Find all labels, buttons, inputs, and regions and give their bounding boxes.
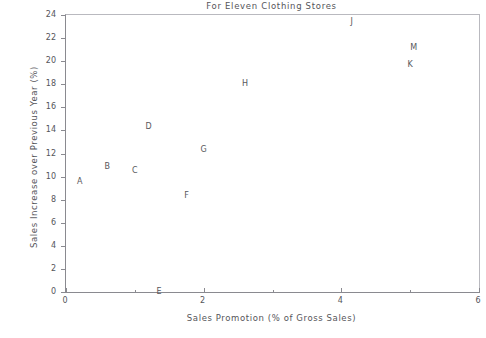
y-tick-mark	[61, 61, 66, 62]
x-tick-mark	[410, 290, 411, 293]
x-tick-mark	[273, 290, 274, 293]
y-tick-label: 20	[36, 56, 56, 65]
y-tick-mark	[61, 177, 66, 178]
scatter-chart-figure: For Eleven Clothing Stores ABCDEFGHJKM 0…	[0, 0, 486, 338]
y-tick-mark	[61, 246, 66, 247]
y-tick-mark	[61, 38, 66, 39]
y-tick-label: 10	[36, 171, 56, 180]
data-point-k: K	[408, 61, 413, 69]
y-tick-label: 14	[36, 125, 56, 134]
data-point-h: H	[242, 80, 248, 88]
x-tick-mark	[341, 288, 342, 293]
y-tick-label: 22	[36, 33, 56, 42]
x-tick-label: 4	[338, 296, 343, 305]
y-tick-mark	[61, 154, 66, 155]
y-tick-mark	[61, 107, 66, 108]
y-tick-mark	[61, 84, 66, 85]
x-axis-title: Sales Promotion (% of Gross Sales)	[65, 313, 478, 323]
x-tick-label: 0	[62, 296, 67, 305]
y-axis-title: Sales Increase over Previous Year (%)	[29, 27, 39, 287]
plot-area: ABCDEFGHJKM	[65, 14, 480, 293]
data-point-j: J	[350, 18, 352, 26]
y-tick-mark	[61, 130, 66, 131]
y-tick-label: 4	[36, 240, 56, 249]
y-tick-label: 6	[36, 217, 56, 226]
data-point-b: B	[105, 163, 111, 171]
y-tick-label: 12	[36, 148, 56, 157]
data-point-d: D	[146, 123, 152, 131]
data-point-e: E	[156, 288, 161, 296]
y-tick-label: 0	[36, 287, 56, 296]
data-point-a: A	[77, 178, 82, 186]
y-tick-mark	[61, 223, 66, 224]
y-tick-label: 8	[36, 194, 56, 203]
y-tick-label: 24	[36, 10, 56, 19]
x-tick-mark	[135, 290, 136, 293]
x-tick-mark	[66, 288, 67, 293]
x-tick-mark	[204, 288, 205, 293]
y-tick-label: 2	[36, 263, 56, 272]
data-point-f: F	[184, 192, 189, 200]
chart-title: For Eleven Clothing Stores	[65, 1, 478, 11]
y-tick-mark	[61, 200, 66, 201]
x-tick-label: 2	[200, 296, 205, 305]
data-point-m: M	[410, 44, 417, 52]
y-tick-label: 18	[36, 79, 56, 88]
x-tick-mark	[479, 288, 480, 293]
x-tick-label: 6	[475, 296, 480, 305]
data-point-g: G	[201, 146, 207, 154]
y-tick-mark	[61, 292, 66, 293]
y-tick-mark	[61, 269, 66, 270]
data-point-c: C	[132, 167, 138, 175]
y-tick-label: 16	[36, 102, 56, 111]
y-tick-mark	[61, 15, 66, 16]
data-points-layer: ABCDEFGHJKM	[66, 15, 479, 292]
